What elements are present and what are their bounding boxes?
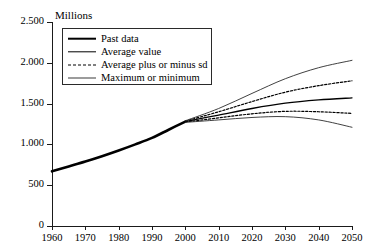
legend-key-dashed-icon xyxy=(68,59,96,71)
legend-label-average-plus-minus-sd: Average plus or minus sd xyxy=(101,59,208,71)
legend-item-past-data: Past data xyxy=(68,32,211,45)
series-line-average-value xyxy=(185,98,352,122)
series-line-average-plus-sd xyxy=(185,81,352,121)
chart-root: Millions 05001.0001.5002.0002.500 196019… xyxy=(0,0,382,248)
legend-label-maximum-or-minimum: Maximum or minimum xyxy=(101,72,200,84)
legend-key-thin-solid-icon xyxy=(68,72,96,84)
legend-item-average-plus-minus-sd: Average plus or minus sd xyxy=(68,58,211,71)
legend-item-maximum-or-minimum: Maximum or minimum xyxy=(68,71,211,84)
legend-label-average-value: Average value xyxy=(101,46,161,58)
legend-key-thick-solid-icon xyxy=(68,33,96,45)
legend-label-past-data: Past data xyxy=(101,33,139,45)
legend-key-medium-solid-icon xyxy=(68,46,96,58)
chart-legend: Past data Average value Average plus or … xyxy=(62,28,212,85)
series-line-minimum xyxy=(185,117,352,128)
series-line-past-data xyxy=(52,122,185,172)
legend-item-average-value: Average value xyxy=(68,45,211,58)
